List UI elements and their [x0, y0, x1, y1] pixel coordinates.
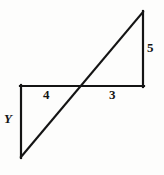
label-left-vertical: Y [4, 112, 12, 125]
figure-canvas [0, 0, 164, 175]
geometry-figure: Y 4 3 5 [0, 0, 164, 175]
diagonal-line [21, 12, 143, 157]
label-right-vertical: 5 [147, 41, 154, 54]
label-right-horizontal: 3 [109, 88, 116, 101]
label-left-horizontal: 4 [43, 88, 50, 101]
